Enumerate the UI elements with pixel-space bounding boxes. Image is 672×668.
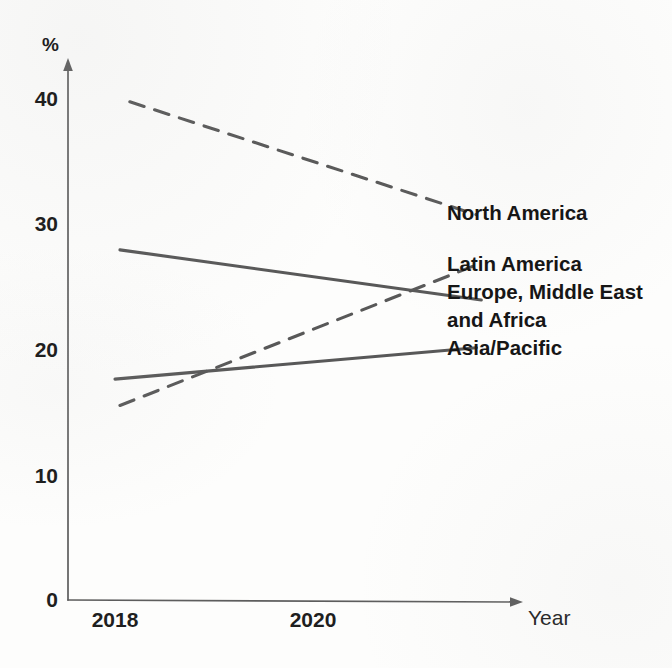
y-tick-label-20: 20 — [14, 338, 58, 362]
series-line-asia-pacific — [115, 348, 476, 379]
series-label-north-america: North America — [447, 203, 588, 224]
series-line-latin-america — [120, 265, 476, 406]
y-axis-arrow-icon — [63, 58, 73, 71]
x-tick-label-2018: 2018 — [75, 608, 155, 632]
x-axis-label: Year — [528, 606, 570, 630]
series-label-asia-pacific: Asia/Pacific — [447, 338, 562, 359]
x-axis-arrow-icon — [510, 597, 523, 607]
line-chart: % 40 30 20 10 0 2018 2020 Year North Ame… — [0, 0, 672, 668]
series-line-europe-middle-east-africa — [120, 250, 481, 300]
y-tick-label-0: 0 — [14, 588, 58, 612]
chart-plot-area — [0, 0, 672, 668]
y-tick-label-30: 30 — [14, 212, 58, 236]
x-tick-label-2020: 2020 — [273, 608, 353, 632]
y-tick-label-10: 10 — [14, 464, 58, 488]
series-label-emea-line2: and Africa — [447, 310, 547, 331]
series-label-latin-america: Latin America — [447, 254, 582, 275]
x-axis-line — [68, 600, 514, 602]
series-group — [115, 102, 481, 406]
series-line-north-america — [130, 102, 477, 215]
y-tick-label-40: 40 — [14, 87, 58, 111]
y-axis-unit-label: % — [42, 34, 59, 56]
series-label-emea-line1: Europe, Middle East — [447, 282, 643, 303]
